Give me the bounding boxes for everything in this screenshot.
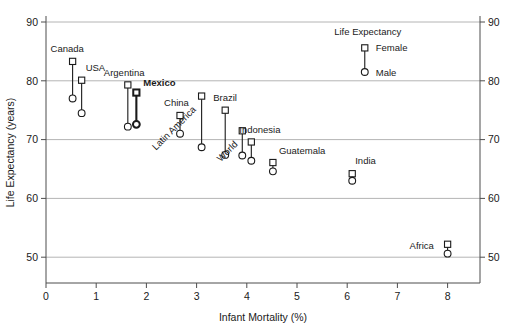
y-tick-label-right-70: 70 bbox=[488, 133, 500, 145]
data-point-africa[interactable] bbox=[444, 241, 451, 257]
female-marker[interactable] bbox=[199, 93, 205, 99]
legend-label-female: Female bbox=[376, 42, 408, 53]
female-marker[interactable] bbox=[349, 171, 355, 177]
point-label-usa: USA bbox=[86, 62, 106, 73]
y-tick-label-left-70: 70 bbox=[26, 133, 38, 145]
legend-label-male: Male bbox=[376, 67, 397, 78]
point-label-india: India bbox=[355, 155, 376, 166]
y-tick-label-left-60: 60 bbox=[26, 192, 38, 204]
y-tick-label-right-90: 90 bbox=[488, 16, 500, 28]
y-tick-label-right-80: 80 bbox=[488, 75, 500, 87]
male-marker[interactable] bbox=[349, 177, 356, 184]
data-point-argentina[interactable] bbox=[124, 82, 131, 130]
grid-lines bbox=[46, 22, 480, 257]
point-label-guatemala: Guatemala bbox=[279, 145, 326, 156]
female-marker[interactable] bbox=[222, 107, 228, 113]
point-label-argentina: Argentina bbox=[104, 67, 145, 78]
point-label-africa: Africa bbox=[410, 240, 435, 251]
point-label-world: World bbox=[214, 138, 239, 163]
x-tick-label-4: 4 bbox=[244, 290, 250, 302]
legend-male-marker bbox=[361, 69, 368, 76]
point-label-mexico: Mexico bbox=[143, 77, 175, 88]
legend-female-marker bbox=[362, 45, 368, 51]
male-marker[interactable] bbox=[444, 250, 451, 257]
chart-canvas: 50506060707080809090012345678 CanadaUSAA… bbox=[0, 0, 521, 331]
x-tick-label-8: 8 bbox=[445, 290, 451, 302]
data-point-indonesia[interactable] bbox=[248, 139, 255, 164]
female-marker[interactable] bbox=[133, 89, 139, 95]
point-label-canada: Canada bbox=[51, 43, 85, 54]
female-marker[interactable] bbox=[445, 241, 451, 247]
data-point-mexico[interactable] bbox=[133, 89, 140, 127]
point-label-latin-america: Latin America bbox=[150, 103, 199, 152]
x-tick-label-0: 0 bbox=[43, 290, 49, 302]
male-marker[interactable] bbox=[239, 152, 246, 159]
data-point-canada[interactable] bbox=[69, 58, 76, 102]
female-marker[interactable] bbox=[79, 77, 85, 83]
x-tick-label-1: 1 bbox=[93, 290, 99, 302]
axis-tick-labels: 50506060707080809090012345678 bbox=[26, 16, 500, 302]
y-tick-label-left-80: 80 bbox=[26, 75, 38, 87]
x-tick-label-2: 2 bbox=[143, 290, 149, 302]
x-tick-label-3: 3 bbox=[194, 290, 200, 302]
male-marker[interactable] bbox=[133, 121, 140, 128]
male-marker[interactable] bbox=[124, 123, 131, 130]
data-point-usa[interactable] bbox=[78, 77, 85, 116]
female-marker[interactable] bbox=[70, 58, 76, 64]
x-tick-label-5: 5 bbox=[294, 290, 300, 302]
male-marker[interactable] bbox=[69, 95, 76, 102]
x-tick-label-7: 7 bbox=[394, 290, 400, 302]
male-marker[interactable] bbox=[78, 110, 85, 117]
data-point-india[interactable] bbox=[349, 171, 356, 185]
y-axis-title: Life Expectancy (years) bbox=[4, 98, 16, 208]
female-marker[interactable] bbox=[125, 82, 131, 88]
data-point-latin-america[interactable] bbox=[198, 93, 205, 151]
x-tick-label-6: 6 bbox=[344, 290, 350, 302]
data-point-guatemala[interactable] bbox=[270, 159, 277, 174]
chart-legend: Life ExpectancyFemaleMale bbox=[334, 26, 407, 78]
life-expectancy-scatter-chart: 50506060707080809090012345678 CanadaUSAA… bbox=[0, 0, 521, 331]
y-tick-label-left-50: 50 bbox=[26, 251, 38, 263]
male-marker[interactable] bbox=[248, 157, 255, 164]
male-marker[interactable] bbox=[270, 168, 277, 175]
legend-title: Life Expectancy bbox=[334, 26, 401, 37]
y-tick-label-right-50: 50 bbox=[488, 251, 500, 263]
x-axis-title: Infant Mortality (%) bbox=[219, 311, 307, 323]
female-marker[interactable] bbox=[270, 159, 276, 165]
point-label-indonesia: Indonesia bbox=[239, 124, 281, 135]
male-marker[interactable] bbox=[198, 144, 205, 151]
data-points bbox=[69, 58, 451, 257]
female-marker[interactable] bbox=[248, 139, 254, 145]
y-tick-label-left-90: 90 bbox=[26, 16, 38, 28]
y-tick-label-right-60: 60 bbox=[488, 192, 500, 204]
point-label-brazil: Brazil bbox=[213, 92, 237, 103]
